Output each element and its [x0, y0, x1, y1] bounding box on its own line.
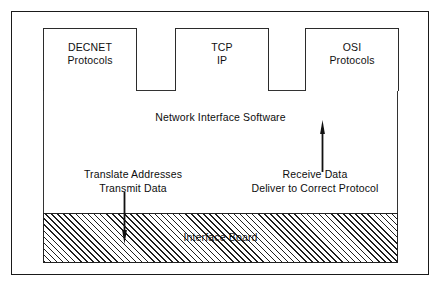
protocol-box-osi: OSI Protocols [305, 28, 399, 91]
protocol-box-decnet: DECNET Protocols [43, 28, 137, 91]
transmit-annotation-line-2: Transmit Data [43, 182, 223, 196]
interface-board-label: Interface Board [43, 231, 398, 245]
arrow-up-icon [318, 120, 327, 172]
network-interface-software-label: Network Interface Software [43, 111, 398, 125]
receive-annotation-line-1: Receive Data [225, 168, 405, 182]
receive-annotation: Receive Data Deliver to Correct Protocol [225, 168, 405, 195]
protocol-box-decnet-line-2: Protocols [67, 54, 112, 67]
receive-annotation-line-2: Deliver to Correct Protocol [225, 182, 405, 196]
protocol-box-decnet-line-1: DECNET [68, 41, 112, 54]
protocol-box-osi-line-2: Protocols [329, 54, 374, 67]
diagram-canvas: DECNET Protocols TCP IP OSI Protocols Ne… [0, 0, 442, 287]
protocol-box-osi-line-1: OSI [343, 41, 362, 54]
transmit-annotation-line-1: Translate Addresses [43, 168, 223, 182]
protocol-box-tcpip-line-1: TCP [211, 41, 232, 54]
protocol-box-tcpip-line-2: IP [217, 54, 227, 67]
protocol-box-tcpip: TCP IP [175, 28, 269, 91]
arrow-down-icon [120, 192, 129, 244]
transmit-annotation: Translate Addresses Transmit Data [43, 168, 223, 195]
